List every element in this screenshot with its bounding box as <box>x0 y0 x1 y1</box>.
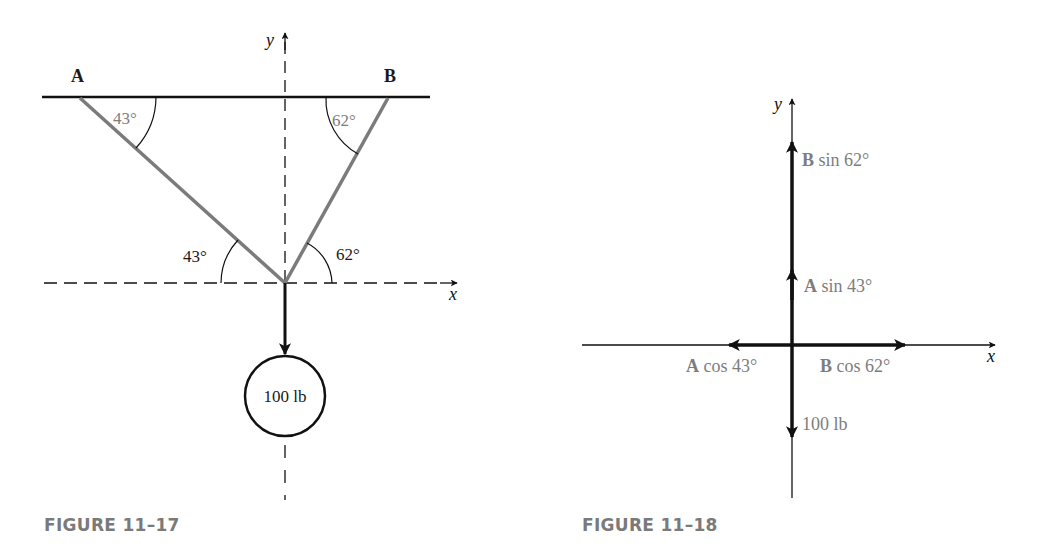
anchor-label-b: B <box>384 66 396 86</box>
figure-caption-11-18: FIGURE 11–18 <box>582 515 718 535</box>
x-axis-label: x <box>448 284 457 304</box>
weight-label: 100 lb <box>264 387 307 406</box>
a-sin-bold: A <box>804 276 817 296</box>
a-cos-rest: cos 43° <box>699 356 757 376</box>
angle-arc-top-left <box>136 97 156 148</box>
b-cos-label: B cos 62° <box>820 356 890 376</box>
a-cos-bold: A <box>686 356 699 376</box>
angle-arc-bottom-right <box>307 243 332 283</box>
figure-caption-11-17: FIGURE 11–17 <box>44 515 180 535</box>
anchor-label-a: A <box>71 66 84 86</box>
y-axis-label: y <box>772 94 782 114</box>
angle-label-top-left: 43° <box>113 109 137 128</box>
weight-label: 100 lb <box>802 414 848 434</box>
angle-arc-bottom-left <box>221 240 238 283</box>
angle-label-top-right: 62° <box>332 111 356 130</box>
diagram-canvas: y x A B 43° 62° 43° 62° 100 lb FIGURE 11… <box>0 0 1042 553</box>
angle-label-bottom-right: 62° <box>336 245 360 264</box>
b-sin-label: B sin 62° <box>802 150 869 170</box>
angle-label-bottom-left: 43° <box>183 247 207 266</box>
b-cos-rest: cos 62° <box>832 356 890 376</box>
x-axis-label: x <box>986 346 995 366</box>
b-sin-bold: B <box>802 150 814 170</box>
y-axis-label: y <box>264 30 274 50</box>
figure-11-17: y x A B 43° 62° 43° 62° 100 lb FIGURE 11… <box>42 30 457 535</box>
a-sin-rest: sin 43° <box>817 276 872 296</box>
figure-11-18: x y B sin 62° A sin 43° A cos 43° B cos … <box>582 94 995 535</box>
b-sin-rest: sin 62° <box>814 150 869 170</box>
b-cos-bold: B <box>820 356 832 376</box>
a-sin-label: A sin 43° <box>804 276 872 296</box>
a-cos-label: A cos 43° <box>686 356 757 376</box>
